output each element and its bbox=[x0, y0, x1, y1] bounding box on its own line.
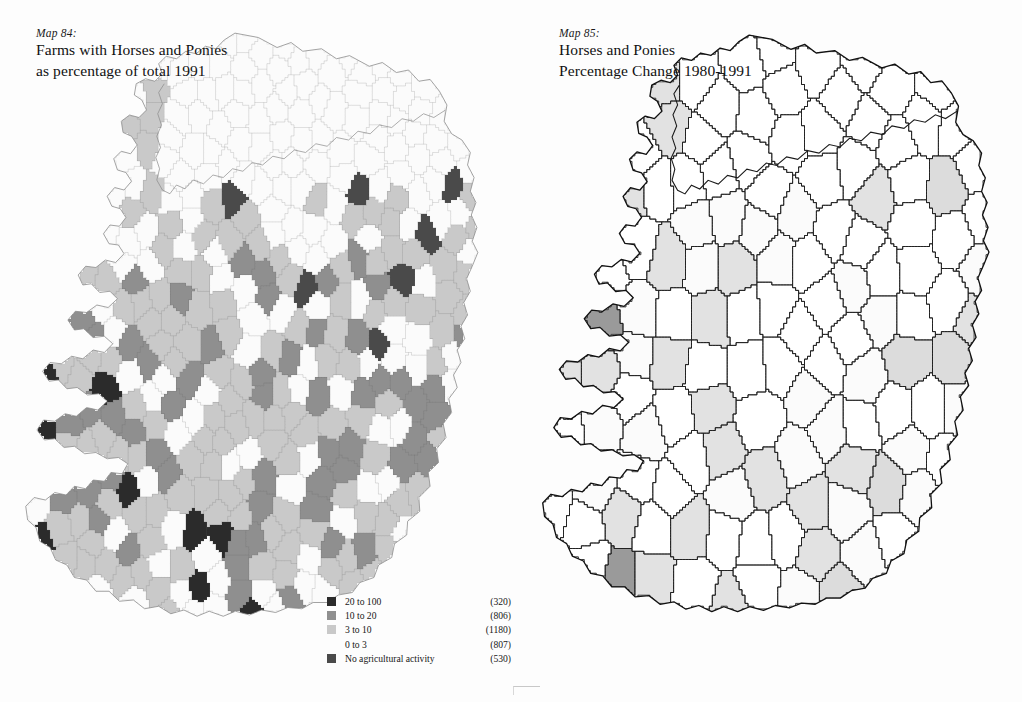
map-region bbox=[623, 186, 647, 216]
map-84-legend: 20 to 100(320)10 to 20(806)3 to 10(1180)… bbox=[327, 594, 511, 666]
map-panel-84: Map 84: Farms with Horses and Ponies as … bbox=[0, 0, 511, 702]
map-region bbox=[692, 288, 731, 348]
legend-row: 20 to 100(320) bbox=[327, 594, 511, 608]
legend-swatch bbox=[327, 640, 336, 649]
legend-count: (530) bbox=[463, 653, 511, 664]
legend-row: 10 to 20(806) bbox=[327, 608, 511, 622]
map-84-label: Map 84: bbox=[36, 26, 227, 40]
legend-label: 3 to 10 bbox=[345, 624, 463, 635]
legend-count: (320) bbox=[463, 596, 511, 607]
legend-label: 10 to 20 bbox=[345, 610, 463, 621]
legend-count: (807) bbox=[463, 639, 511, 650]
map-region bbox=[354, 500, 378, 533]
map-84-title-line2: as percentage of total 1991 bbox=[36, 61, 227, 82]
map-region bbox=[430, 311, 454, 350]
map-85-label: Map 85: bbox=[559, 26, 752, 40]
map-region bbox=[406, 294, 436, 325]
map-region bbox=[306, 377, 330, 416]
map-85-title-line2: Percentage Change 1980-1991 bbox=[559, 61, 752, 82]
map-84-titleblock: Map 84: Farms with Horses and Ponies as … bbox=[36, 26, 227, 81]
map-region bbox=[68, 311, 95, 330]
legend-label: 0 to 3 bbox=[345, 639, 463, 650]
legend-row: 3 to 10(1180) bbox=[327, 623, 511, 637]
map-region bbox=[143, 411, 167, 442]
legend-label: 20 to 100 bbox=[345, 596, 463, 607]
map-region bbox=[384, 133, 408, 164]
page-footer-mark bbox=[513, 686, 540, 695]
map-region bbox=[656, 288, 692, 340]
map-85-title-line1: Horses and Ponies bbox=[559, 40, 752, 61]
map-region bbox=[727, 340, 766, 400]
legend-swatch bbox=[327, 597, 336, 606]
legend-count: (806) bbox=[463, 610, 511, 621]
legend-row: 0 to 3(807) bbox=[327, 637, 511, 651]
legend-label: No agricultural activity bbox=[345, 653, 463, 664]
map-page: Map 84: Farms with Horses and Ponies as … bbox=[0, 0, 1022, 702]
legend-count: (1180) bbox=[463, 624, 511, 635]
map-85-titleblock: Map 85: Horses and Ponies Percentage Cha… bbox=[559, 26, 752, 81]
map-84-title-line1: Farms with Horses and Ponies bbox=[36, 40, 227, 61]
legend-swatch bbox=[327, 625, 336, 634]
legend-swatch bbox=[327, 654, 336, 663]
map-region bbox=[161, 511, 185, 550]
ireland-map-85 bbox=[511, 0, 1022, 702]
legend-swatch bbox=[327, 611, 336, 620]
map-region bbox=[409, 97, 433, 125]
map-panel-85: Map 85: Horses and Ponies Percentage Cha… bbox=[511, 0, 1022, 702]
legend-row: No agricultural activity(530) bbox=[327, 652, 511, 666]
